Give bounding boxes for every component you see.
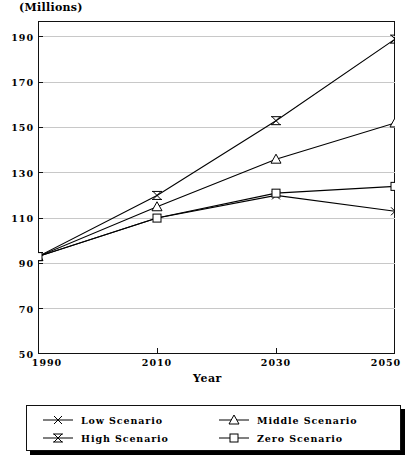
y-axis-tick-label: 70 (4, 303, 34, 314)
x-axis-tick-marks (157, 348, 276, 354)
y-axis-tick-label: 110 (4, 213, 34, 224)
star-marker-icon (41, 430, 75, 446)
legend-item-high-scenario[interactable]: High Scenario (41, 430, 169, 446)
gridlines (38, 37, 395, 354)
y-axis-tick-label: 170 (4, 77, 34, 88)
x-axis-tick-label: 2030 (261, 357, 291, 368)
x-axis-tick-label: 1990 (32, 357, 62, 368)
x-axis-tick-label: 2010 (142, 357, 172, 368)
y-axis-tick-label: 90 (4, 258, 34, 269)
y-axis-tick-label: 150 (4, 122, 34, 133)
legend-item-zero-scenario[interactable]: Zero Scenario (217, 430, 343, 446)
legend-label: Zero Scenario (251, 433, 343, 444)
legend-item-middle-scenario[interactable]: Middle Scenario (217, 412, 358, 428)
triangle-marker-icon (217, 412, 251, 428)
x-axis-tick-label: 2050 (371, 357, 401, 368)
legend-label: Low Scenario (75, 415, 163, 426)
data-series-group (38, 35, 395, 260)
y-axis-tick-label: 190 (4, 31, 34, 42)
chart-plot (38, 21, 395, 354)
y-axis-tick-label: 130 (4, 167, 34, 178)
y-axis-tick-labels: 190170150130110907050 (0, 0, 34, 459)
legend-label: High Scenario (75, 433, 169, 444)
legend-label: Middle Scenario (251, 415, 358, 426)
legend-item-low-scenario[interactable]: Low Scenario (41, 412, 163, 428)
x-marker-icon (41, 412, 75, 428)
chart-legend: Low Scenario High Scenario Middle Scenar… (26, 405, 401, 451)
x-axis-title: Year (0, 372, 415, 385)
x-axis-tick-labels: 1990201020302050 (0, 357, 415, 373)
square-marker-icon (217, 430, 251, 446)
